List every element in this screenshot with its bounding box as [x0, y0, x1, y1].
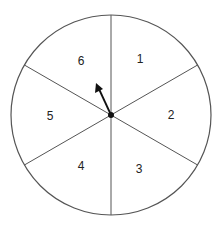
sector-label-6: 6: [78, 54, 85, 68]
sector-label-3: 3: [136, 162, 143, 176]
sector-label-5: 5: [47, 109, 54, 123]
sector-label-4: 4: [78, 159, 85, 173]
pivot-dot: [108, 112, 114, 118]
sector-label-1: 1: [137, 52, 144, 66]
spinner-diagram: 1 2 3 4 5 6: [0, 0, 218, 226]
sector-label-2: 2: [168, 108, 175, 122]
